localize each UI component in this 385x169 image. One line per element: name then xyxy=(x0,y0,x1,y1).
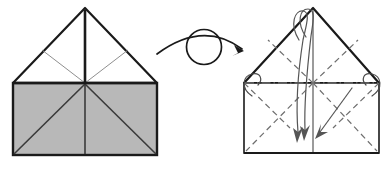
right-base-square xyxy=(244,83,379,153)
right-panel-after-state xyxy=(244,8,380,153)
right-roof-triangle xyxy=(244,8,379,83)
left-panel-before-state xyxy=(13,8,157,155)
origami-illustration xyxy=(0,0,385,169)
origami-diagram xyxy=(0,0,385,169)
turn-over-circle xyxy=(187,30,222,65)
turn-over-arc xyxy=(157,36,242,54)
turn-over-symbol xyxy=(157,30,244,65)
